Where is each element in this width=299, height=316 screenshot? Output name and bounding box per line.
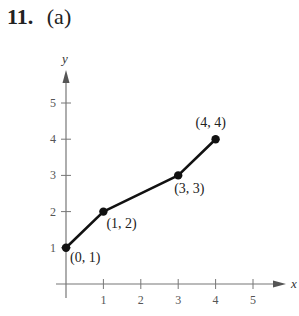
x-tick-label: 1 <box>100 293 106 307</box>
x-tick-label: 4 <box>213 293 219 307</box>
x-axis-label: x <box>290 276 297 291</box>
data-point-marker <box>99 207 107 215</box>
point-label: (0, 1) <box>70 250 101 266</box>
x-tick-label: 3 <box>175 293 181 307</box>
x-tick-label: 5 <box>250 293 256 307</box>
y-tick-label: 3 <box>50 168 56 182</box>
x-axis-arrow-icon <box>273 281 286 288</box>
point-label: (1, 2) <box>106 216 137 232</box>
point-label: (4, 4) <box>196 115 227 131</box>
x-tick-label: 2 <box>138 293 144 307</box>
data-point-marker <box>211 135 219 143</box>
data-point-marker <box>174 171 182 179</box>
line-chart: xy 1234512345 (0, 1)(1, 2)(3, 3)(4, 4) <box>0 0 299 316</box>
data-point-marker <box>62 244 70 252</box>
y-axis-arrow-icon <box>63 70 70 83</box>
y-tick-label: 2 <box>50 205 56 219</box>
y-axis-label: y <box>60 51 68 66</box>
y-tick-label: 1 <box>50 241 56 255</box>
point-label: (3, 3) <box>174 181 205 197</box>
y-tick-label: 4 <box>50 132 56 146</box>
y-tick-label: 5 <box>50 96 56 110</box>
